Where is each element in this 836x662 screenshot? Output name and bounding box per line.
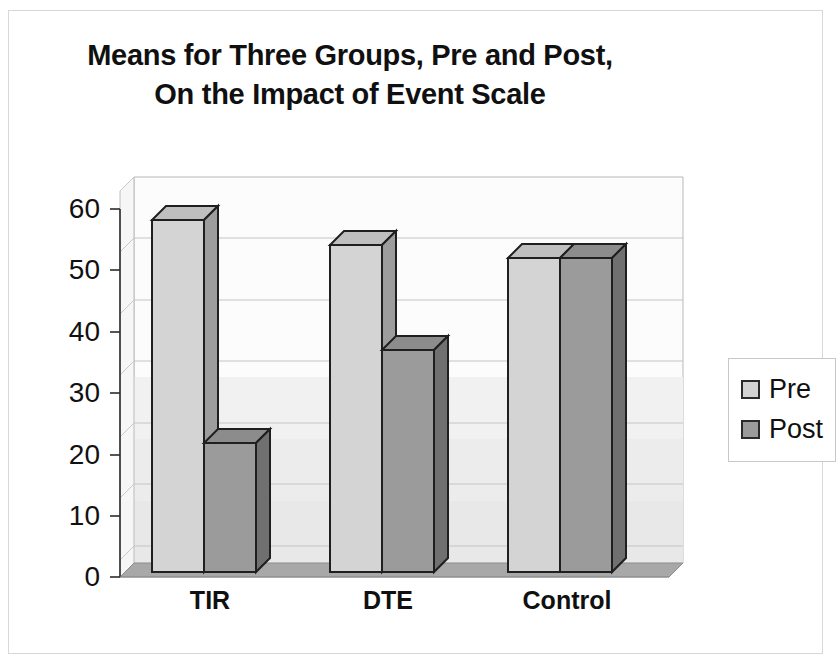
- x-category-label-control: Control: [497, 588, 637, 613]
- x-category-label-dte: DTE: [328, 588, 448, 613]
- y-tick-label-0: 0: [42, 563, 100, 591]
- legend-swatch-pre-icon: [741, 380, 760, 399]
- chart-legend: Pre Post: [728, 358, 836, 462]
- legend-swatch-post-icon: [741, 420, 760, 439]
- plot-left-wall: [120, 177, 134, 577]
- x-category-label-tir: TIR: [150, 588, 270, 613]
- y-tick-label-40: 40: [42, 318, 100, 346]
- bar-tir-post[interactable]: [204, 429, 270, 572]
- y-tick-label-10: 10: [42, 502, 100, 530]
- y-tick-label-20: 20: [42, 441, 100, 469]
- y-tick-label-60: 60: [42, 195, 100, 223]
- legend-label-post: Post: [769, 416, 823, 443]
- bar-dte-post[interactable]: [382, 336, 448, 572]
- bar-control-post[interactable]: [560, 244, 626, 572]
- legend-item-pre[interactable]: Pre: [741, 369, 835, 409]
- legend-item-post[interactable]: Post: [741, 409, 835, 449]
- y-tick-label-50: 50: [42, 256, 100, 284]
- legend-label-pre: Pre: [769, 376, 811, 403]
- y-tick-label-30: 30: [42, 379, 100, 407]
- y-axis: [110, 209, 120, 577]
